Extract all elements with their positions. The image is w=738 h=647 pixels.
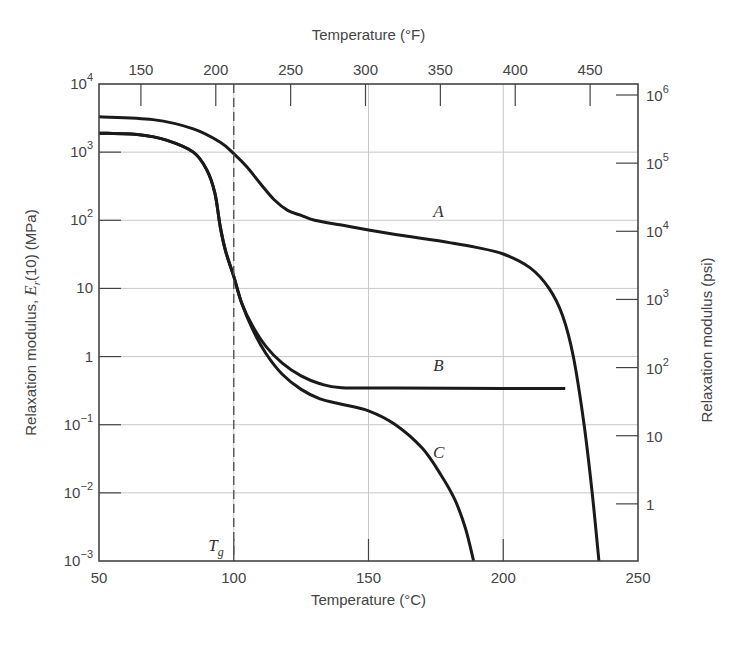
- curve-c: [99, 133, 474, 561]
- y-tick-label: 10−3: [64, 548, 93, 569]
- curve-label-c: C: [433, 443, 445, 462]
- y-tick-label: 104: [70, 71, 93, 92]
- relaxation-modulus-chart: 10410310210110−110−210−35010015020025015…: [0, 0, 738, 647]
- tg-label: Tg: [208, 536, 223, 559]
- x2-tick-label: 200: [203, 61, 228, 78]
- y2-tick-label: 1: [646, 496, 654, 513]
- y-tick-label: 10: [76, 279, 93, 296]
- x2-axis-title: Temperature (°F): [312, 26, 426, 43]
- grid-lines: [99, 84, 638, 561]
- y-tick-label: 10−2: [64, 480, 93, 501]
- x-axis-title: Temperature (°C): [311, 591, 426, 608]
- x2-tick-label: 450: [578, 61, 603, 78]
- y2-tick-label: 103: [646, 287, 669, 308]
- curve-a: [99, 117, 599, 561]
- curve-label-b: B: [433, 356, 444, 375]
- y2-tick-label: 10: [646, 428, 663, 445]
- y-tick-label: 103: [70, 139, 93, 160]
- axis-labels: 10410310210110−110−210−35010015020025015…: [64, 61, 669, 586]
- x2-tick-label: 300: [353, 61, 378, 78]
- x2-tick-label: 350: [428, 61, 453, 78]
- x-tick-label: 150: [356, 569, 381, 586]
- x2-tick-label: 250: [278, 61, 303, 78]
- x-tick-label: 200: [491, 569, 516, 586]
- y2-tick-label: 106: [646, 83, 669, 104]
- x-tick-label: 100: [221, 569, 246, 586]
- x-tick-label: 250: [625, 569, 650, 586]
- y-tick-label: 10−1: [64, 412, 93, 433]
- y2-tick-label: 105: [646, 151, 669, 172]
- y2-tick-label: 104: [646, 219, 669, 240]
- curve-label-a: A: [432, 202, 444, 221]
- x2-tick-label: 400: [503, 61, 528, 78]
- y2-tick-label: 102: [646, 356, 669, 377]
- x-tick-label: 50: [91, 569, 108, 586]
- curves: [99, 117, 599, 561]
- y2-axis-title: Relaxation modulus (psi): [698, 257, 715, 422]
- y-tick-label: 1: [85, 348, 93, 365]
- y-tick-label: 102: [70, 207, 93, 228]
- x2-tick-label: 150: [128, 61, 153, 78]
- curve-b: [99, 133, 565, 388]
- y-axis-title: Relaxation modulus, Er(10) (MPa): [21, 209, 42, 435]
